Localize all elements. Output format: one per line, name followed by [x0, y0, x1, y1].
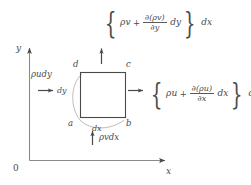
origin-label: 0 — [13, 164, 19, 173]
top-operator: + — [131, 19, 141, 28]
right-flux-expression: { ρu + ∂(ρu) ∂x dx } dy — [147, 83, 251, 105]
brace-close-icon: } — [231, 83, 243, 105]
control-volume-arc — [73, 74, 124, 128]
right-fraction-denominator: ∂x — [196, 94, 209, 103]
mass-flux-control-volume-figure: y x 0 d c a b dy dx ρudy ρvdx { ρv + ∂(ρ… — [0, 0, 251, 185]
top-differential: dy — [168, 18, 181, 27]
right-differential: dx — [216, 89, 229, 98]
corner-label-c: c — [126, 60, 131, 69]
top-fraction: ∂(ρv) ∂y — [142, 14, 169, 32]
right-multiplier: dy — [246, 89, 251, 98]
top-fraction-denominator: ∂y — [149, 23, 162, 32]
right-operator: + — [178, 90, 188, 99]
brace-open-icon: { — [105, 12, 117, 34]
top-flux-expression: { ρv + ∂(ρv) ∂y dy } dx — [101, 12, 212, 34]
left-flux-label: ρudy — [31, 70, 52, 79]
y-axis-label: y — [16, 44, 21, 53]
x-axis-label: x — [166, 167, 171, 176]
top-fraction-numerator: ∂(ρv) — [143, 14, 167, 24]
corner-label-d: d — [73, 60, 78, 69]
brace-close-icon: } — [184, 12, 196, 34]
bottom-flux-label: ρvdx — [99, 133, 119, 142]
control-volume-rect — [81, 73, 126, 118]
brace-open-icon: { — [151, 83, 163, 105]
corner-label-a: a — [68, 119, 73, 128]
top-multiplier: dx — [199, 18, 212, 27]
corner-label-b: b — [126, 119, 131, 128]
right-fraction: ∂(ρu) ∂x — [188, 85, 215, 103]
top-term-rho-v: ρv — [119, 18, 131, 27]
right-term-rho-u: ρu — [165, 89, 178, 98]
height-label-dy: dy — [57, 87, 67, 95]
right-fraction-numerator: ∂(ρu) — [190, 85, 214, 95]
